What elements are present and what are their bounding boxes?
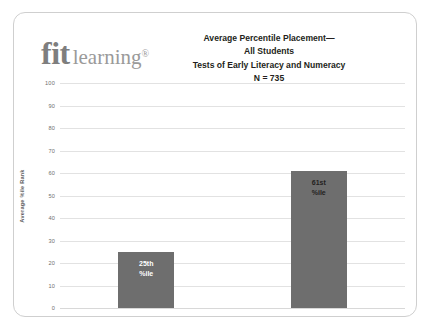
chart-title-line-1: Average Percentile Placement— [164, 32, 374, 45]
logo-primary-text: fit [41, 35, 70, 71]
logo-secondary-text: learning [73, 45, 142, 69]
x-axis-tick-label: Intake [60, 315, 233, 317]
bar[interactable]: 61st%ile [291, 171, 347, 308]
y-axis-label: Average %ile Rank [19, 169, 25, 222]
y-axis-tick-label: 80 [48, 125, 55, 131]
y-axis-tick-label: 50 [48, 193, 55, 199]
y-axis-tick-label: 0 [52, 305, 55, 311]
y-axis-tick-label: 100 [45, 80, 55, 86]
gridline [60, 218, 405, 219]
gridline [60, 241, 405, 242]
y-axis-tick-label: 10 [48, 283, 55, 289]
y-axis-tick-label: 20 [48, 260, 55, 266]
plot-area: Average %ile Rank 0102030405060708090100… [60, 83, 405, 308]
gridline [60, 151, 405, 152]
y-axis-tick-label: 60 [48, 170, 55, 176]
registered-trademark-icon: ® [142, 48, 150, 59]
gridline [60, 263, 405, 264]
x-axis-tick-label: 40 Hours [233, 315, 406, 317]
chart-title: Average Percentile Placement— All Studen… [164, 32, 374, 85]
gridline [60, 106, 405, 107]
y-axis-tick-label: 90 [48, 103, 55, 109]
chart-title-line-2: All Students [164, 45, 374, 58]
y-axis-tick-label: 70 [48, 148, 55, 154]
y-axis-tick-label: 40 [48, 215, 55, 221]
gridline [60, 173, 405, 174]
fit-learning-logo: fitlearning® [41, 37, 149, 69]
gridline [60, 196, 405, 197]
gridline [60, 128, 405, 129]
gridline [60, 83, 405, 84]
bar-value-label: 25th%ile [118, 259, 174, 280]
bar-value-label: 61st%ile [291, 178, 347, 199]
chart-card: fitlearning® Average Percentile Placemen… [13, 12, 417, 317]
gridline [60, 308, 405, 309]
gridline [60, 286, 405, 287]
y-axis-tick-label: 30 [48, 238, 55, 244]
bar[interactable]: 25th%ile [118, 252, 174, 308]
chart-title-line-3: Tests of Early Literacy and Numeracy [164, 59, 374, 72]
